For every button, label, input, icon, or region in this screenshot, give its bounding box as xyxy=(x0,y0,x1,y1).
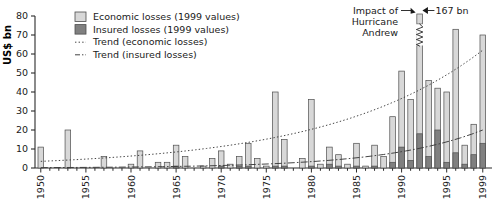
bar-insured xyxy=(282,166,288,168)
bar-economic xyxy=(363,166,369,168)
bar-economic xyxy=(264,166,270,168)
x-tick-label: 1995 xyxy=(441,175,452,199)
chart-legend: Economic losses (1999 values)Insured los… xyxy=(75,11,240,60)
bar-insured xyxy=(372,166,378,168)
y-axis-label: US$ bn xyxy=(2,25,13,65)
x-tick-label: 1955 xyxy=(80,175,91,199)
bar-insured xyxy=(236,166,242,168)
disaster-losses-chart: US$ bn 01020304050607080 195019551960196… xyxy=(0,0,500,201)
bar-economic xyxy=(390,117,396,168)
x-tick-label: 1980 xyxy=(306,175,317,199)
annotation-arrow-left-icon xyxy=(411,8,416,14)
bar-insured xyxy=(354,166,360,168)
bar-insured xyxy=(471,155,477,168)
annotation-hurricane-andrew: Andrew xyxy=(362,27,398,38)
bar-economic-break-stub xyxy=(417,14,423,24)
bar-economic xyxy=(318,164,324,168)
trend-line-insured xyxy=(41,130,483,168)
x-tick-label: 1960 xyxy=(126,175,137,199)
bar-economic xyxy=(381,157,387,168)
x-tick-label: 1999 xyxy=(477,175,488,199)
bar-economic xyxy=(164,162,170,168)
legend-label: Insured losses (1999 values) xyxy=(93,24,229,35)
legend-label: Trend (insured losses) xyxy=(92,49,197,60)
bar-economic xyxy=(354,143,360,168)
legend-label: Economic losses (1999 values) xyxy=(93,11,240,22)
bar-economic xyxy=(408,100,414,168)
y-tick-label: 60 xyxy=(16,48,28,59)
x-axis-ticks: 1950195519601965197019751980198519901995… xyxy=(35,168,488,199)
y-tick-label: 30 xyxy=(16,105,28,116)
annotation-group: Impact ofHurricaneAndrew167 bn xyxy=(352,5,469,38)
bar-insured xyxy=(327,164,333,168)
legend-label: Trend (economic losses) xyxy=(92,36,207,47)
bar-economic xyxy=(137,151,143,168)
y-tick-label: 70 xyxy=(16,29,28,40)
bar-insured xyxy=(462,164,468,168)
axis-break-symbol xyxy=(416,14,423,46)
y-axis-label-group: US$ bn xyxy=(2,25,13,65)
bar-economic xyxy=(300,159,306,169)
bar-economic xyxy=(453,29,459,168)
bar-insured xyxy=(390,162,396,168)
bar-insured xyxy=(336,166,342,168)
legend-swatch-insured xyxy=(75,25,86,34)
x-tick-label: 1975 xyxy=(261,175,272,199)
bar-insured xyxy=(399,147,405,168)
chart-canvas: US$ bn 01020304050607080 195019551960196… xyxy=(0,0,500,201)
annotation-hurricane-andrew: Hurricane xyxy=(352,16,399,27)
bar-insured xyxy=(426,157,432,168)
bar-economic xyxy=(173,145,179,168)
x-tick-label: 1990 xyxy=(396,175,407,199)
bar-insured xyxy=(245,166,251,168)
bar-economic xyxy=(426,81,432,168)
legend-swatch-economic xyxy=(75,12,86,22)
bar-economic xyxy=(38,147,44,168)
bar-economic xyxy=(282,140,288,169)
x-tick-label: 1970 xyxy=(216,175,227,199)
bar-economic xyxy=(345,164,351,168)
bar-economic xyxy=(372,145,378,168)
trend-lines-group xyxy=(41,50,483,167)
y-tick-label: 50 xyxy=(16,67,28,78)
bar-insured xyxy=(218,166,224,168)
bar-insured xyxy=(273,166,279,168)
y-tick-label: 40 xyxy=(16,86,28,97)
bar-economic xyxy=(209,159,215,169)
annotation-hurricane-andrew: Impact of xyxy=(353,5,399,16)
bar-insured xyxy=(408,160,414,168)
bar-economic xyxy=(65,130,71,168)
bar-economic xyxy=(444,92,450,168)
bar-insured xyxy=(309,166,315,168)
annotation-arrow-right-icon xyxy=(422,7,428,14)
y-tick-label: 10 xyxy=(16,143,28,154)
bar-insured xyxy=(417,134,423,168)
bar-insured xyxy=(444,162,450,168)
bar-economic xyxy=(273,92,279,168)
y-axis-ticks: 01020304050607080 xyxy=(16,10,35,173)
bar-economic xyxy=(309,100,315,168)
x-tick-label: 1965 xyxy=(171,175,182,199)
x-tick-label: 1950 xyxy=(35,175,46,199)
bar-insured xyxy=(435,130,441,168)
bar-insured xyxy=(453,153,459,168)
bar-economic xyxy=(254,159,260,169)
bar-insured xyxy=(480,143,486,168)
y-tick-label: 20 xyxy=(16,124,28,135)
x-tick-label: 1985 xyxy=(351,175,362,199)
y-tick-label: 0 xyxy=(22,162,28,173)
annotation-value-167bn: 167 bn xyxy=(435,5,468,16)
y-tick-label: 80 xyxy=(16,10,28,21)
trend-line-economic xyxy=(41,50,483,161)
